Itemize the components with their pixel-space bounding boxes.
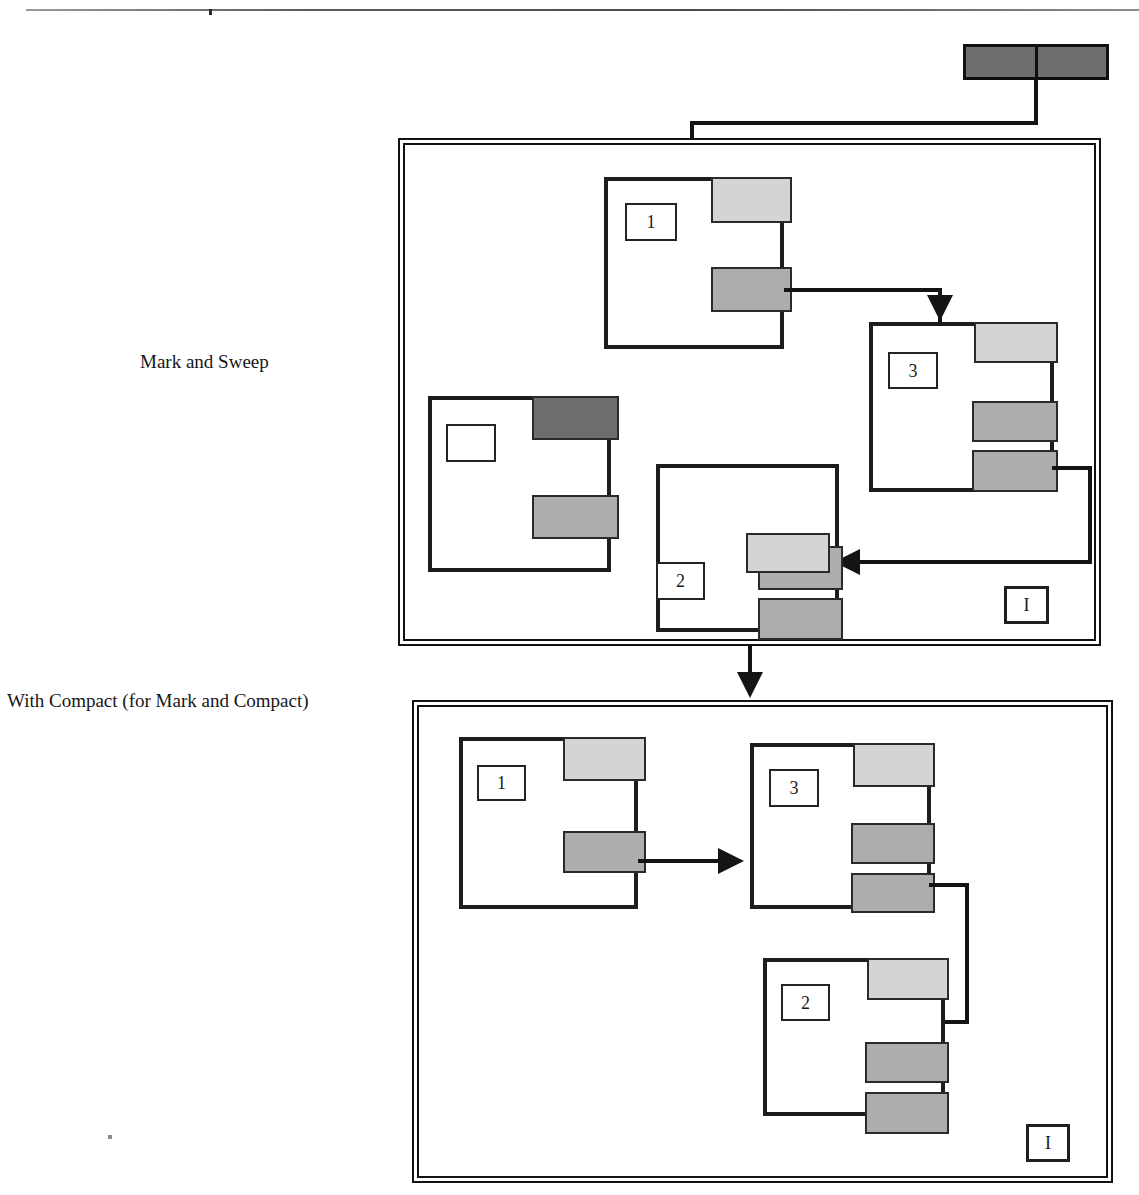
caption-with-compact: With Compact (for Mark and Compact) — [7, 690, 309, 712]
panel1-object-2-slot-2 — [758, 598, 843, 640]
edge-p2-o1-o3-arrowhead — [718, 848, 744, 874]
panel1-object-3: 3 — [869, 322, 1054, 492]
panel1-object-3-label: 3 — [888, 352, 938, 389]
caption-mark-and-sweep: Mark and Sweep — [140, 351, 269, 373]
header-rule-tick — [209, 9, 212, 15]
panel2-object-3-label: 3 — [769, 769, 819, 807]
edge-o1-o3-arrowhead — [927, 295, 953, 321]
panel2-object-2-label: 2 — [781, 984, 830, 1021]
edge-o3-o2-h1 — [1052, 466, 1092, 470]
edge-rootset-seg-h — [690, 121, 1038, 125]
page-artifact-dot — [108, 1135, 112, 1139]
edge-rootset-seg-v1 — [1034, 80, 1038, 125]
panel1-object-garbage-label — [446, 424, 496, 462]
root-set-cell-0 — [966, 47, 1035, 77]
panel2-object-2-slot-2 — [865, 1092, 949, 1134]
edge-p2-o3-o2-h1 — [929, 883, 969, 887]
edge-panel1-panel2-arrowhead — [737, 672, 763, 698]
panel1-object-1-label: 1 — [625, 203, 677, 241]
edge-p2-o3-o2-v — [965, 883, 969, 1024]
figure-canvas: Mark and Sweep With Compact (for Mark an… — [0, 0, 1139, 1195]
panel1-object-1-slot-0 — [711, 177, 792, 223]
root-set-cell-1 — [1035, 47, 1107, 77]
panel2-object-3-slot-0 — [853, 743, 935, 787]
panel2-object-1: 1 — [459, 737, 638, 909]
panel2-object-1-slot-1 — [563, 831, 646, 873]
panel2-object-2: 2 — [763, 958, 945, 1116]
edge-o3-o2-v — [1088, 466, 1092, 564]
panel1-object-garbage-slot-1 — [532, 495, 619, 539]
panel1-object-2: 2 — [656, 464, 839, 632]
panel1-object-3-slot-0 — [974, 322, 1058, 363]
panel2-object-1-label: 1 — [477, 765, 526, 801]
panel1-object-3-slot-1 — [972, 401, 1058, 442]
panel2-object-3-slot-2 — [851, 873, 935, 913]
panel2-object-3: 3 — [750, 743, 931, 909]
panel1-object-garbage-slot-0 — [532, 396, 619, 440]
panel2-tag-box: I — [1026, 1124, 1070, 1162]
panel1-object-2-label: 2 — [656, 562, 705, 600]
panel1-object-garbage — [428, 396, 611, 572]
panel2-object-2-slot-0 — [867, 958, 949, 1000]
root-set-block — [963, 44, 1109, 80]
panel1-object-3-slot-2 — [972, 450, 1058, 492]
panel1-object-1-slot-1 — [711, 267, 792, 312]
edge-o3-o2-h2 — [858, 560, 1092, 564]
panel2-object-3-slot-1 — [851, 823, 935, 864]
header-rule — [26, 9, 1139, 11]
panel2-object-2-slot-1 — [865, 1042, 949, 1083]
edge-o1-o3-h — [784, 288, 942, 292]
panel1-object-2-slot-1 — [746, 533, 830, 573]
panel2-object-1-slot-0 — [563, 737, 646, 781]
panel1-tag-box: I — [1004, 586, 1049, 624]
edge-p2-o1-o3-h — [638, 859, 722, 863]
panel1-object-1: 1 — [604, 177, 784, 349]
